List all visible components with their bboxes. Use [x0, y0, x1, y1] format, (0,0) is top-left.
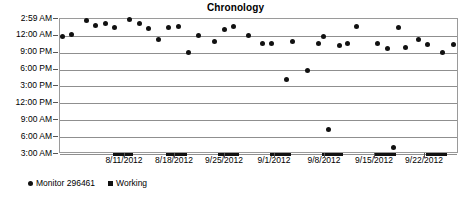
y-axis-tick-label: 6:00 AM [21, 132, 52, 141]
y-axis: 2:59 AM12:00 AM9:00 PM6:00 PM3:00 PM12:0… [0, 18, 56, 153]
gridline [60, 120, 457, 121]
data-point [103, 21, 108, 26]
plot-area [59, 18, 458, 153]
data-point [284, 77, 289, 82]
data-point [416, 37, 421, 42]
gridline [60, 86, 457, 87]
y-axis-tick-label: 9:00 AM [21, 115, 52, 124]
data-point [326, 127, 331, 132]
data-point [231, 24, 236, 29]
data-point [269, 41, 274, 46]
data-point [403, 45, 408, 50]
data-point [60, 34, 65, 39]
y-axis-tick [53, 35, 58, 36]
data-point [246, 33, 251, 38]
legend-entry[interactable]: Working [108, 178, 147, 188]
data-point [345, 41, 350, 46]
y-axis-tick-label: 2:59 AM [21, 14, 52, 23]
data-point [166, 25, 171, 30]
data-point [396, 25, 401, 30]
cropped-footer-text [0, 193, 471, 201]
data-point [305, 68, 310, 73]
y-axis-tick [53, 102, 58, 103]
chart-legend: Monitor 296461Working [28, 176, 147, 190]
data-point [440, 50, 445, 55]
gridline [60, 70, 457, 71]
data-point [186, 50, 191, 55]
data-point [156, 37, 161, 42]
y-axis-tick-label: 12:00 PM [16, 98, 52, 107]
data-point [375, 41, 380, 46]
legend-label: Monitor 296461 [36, 178, 95, 188]
y-axis-tick [53, 85, 58, 86]
chronology-chart: Chronology 2:59 AM12:00 AM9:00 PM6:00 PM… [0, 0, 471, 201]
data-point [212, 39, 217, 44]
data-point [93, 23, 98, 28]
y-axis-tick [53, 153, 58, 154]
data-point [385, 46, 390, 51]
y-axis-tick [53, 119, 58, 120]
legend-label: Working [116, 178, 147, 188]
y-axis-tick-label: 6:00 PM [20, 64, 52, 73]
y-axis-tick [53, 136, 58, 137]
data-point [222, 27, 227, 32]
x-axis-tick [124, 153, 125, 158]
data-point [176, 24, 181, 29]
x-axis-tick [274, 153, 275, 158]
data-point [391, 145, 396, 150]
x-axis: 8/11/20128/18/20129/25/20129/1/20129/8/2… [0, 155, 471, 169]
y-axis-tick-label: 12:00 AM [16, 30, 52, 39]
data-point [425, 42, 430, 47]
data-point [84, 18, 89, 23]
legend-entry[interactable]: Monitor 296461 [28, 178, 95, 188]
data-point [137, 21, 142, 26]
data-point [337, 43, 342, 48]
data-point [69, 32, 74, 37]
data-point [260, 41, 265, 46]
chart-title: Chronology [0, 2, 471, 13]
gridline [60, 137, 457, 138]
y-axis-tick-label: 9:00 PM [20, 47, 52, 56]
x-axis-tick [324, 153, 325, 158]
data-point [146, 26, 151, 31]
gridline [60, 103, 457, 104]
data-point [316, 41, 321, 46]
data-point [354, 24, 359, 29]
data-point [196, 33, 201, 38]
y-axis-tick [53, 52, 58, 53]
x-axis-tick [374, 153, 375, 158]
data-point [112, 25, 117, 30]
x-axis-tick [174, 153, 175, 158]
data-point [290, 39, 295, 44]
gridline [60, 53, 457, 54]
y-axis-tick [53, 18, 58, 19]
legend-square-icon [108, 181, 113, 186]
y-axis-tick [53, 69, 58, 70]
x-axis-tick [224, 153, 225, 158]
data-point [127, 17, 132, 22]
y-axis-tick-label: 3:00 PM [20, 81, 52, 90]
data-point [451, 42, 456, 47]
x-axis-tick [424, 153, 425, 158]
legend-circle-icon [28, 181, 33, 186]
data-point [321, 34, 326, 39]
gridline [60, 36, 457, 37]
